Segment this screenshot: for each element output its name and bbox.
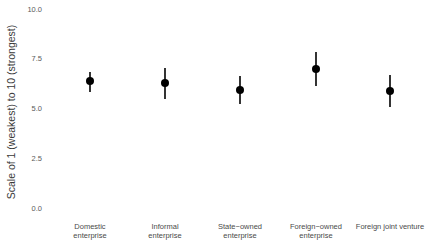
point-marker — [312, 65, 320, 73]
data-point-domestic-enterprise — [86, 72, 94, 92]
y-tick-label: 10.0 — [27, 5, 42, 14]
y-axis-ticks: 0.02.55.07.510.0 — [27, 5, 42, 213]
x-axis-labels: DomesticenterpriseInformalenterpriseStat… — [73, 222, 424, 240]
svg-text:Scale of 1 (weakest) to 10 (st: Scale of 1 (weakest) to 10 (strongest) — [5, 25, 17, 200]
x-tick-label: Informalenterprise — [148, 222, 181, 240]
data-point-foreign-owned-enterprise — [312, 52, 320, 86]
point-marker — [86, 77, 94, 85]
x-tick-label: Domesticenterprise — [73, 222, 106, 240]
x-tick-label: Foreign joint venture — [356, 222, 424, 231]
y-axis-title: Scale of 1 (weakest) to 10 (strongest) — [5, 25, 17, 200]
y-tick-label: 2.5 — [32, 154, 42, 163]
x-tick-label: State−ownedenterprise — [218, 222, 262, 240]
data-point-informal-enterprise — [161, 68, 169, 99]
point-marker — [161, 79, 169, 87]
y-tick-label: 0.0 — [32, 204, 42, 213]
chart: Scale of 1 (weakest) to 10 (strongest) 0… — [0, 0, 439, 250]
x-tick-label: Foreign−ownedenterprise — [290, 222, 342, 240]
point-marker — [236, 86, 244, 94]
data-point-state-owned-enterprise — [236, 76, 244, 104]
y-tick-label: 7.5 — [32, 54, 42, 63]
data-points — [86, 52, 394, 107]
data-point-foreign-joint-venture — [386, 75, 394, 107]
y-tick-label: 5.0 — [32, 104, 42, 113]
point-marker — [386, 87, 394, 95]
